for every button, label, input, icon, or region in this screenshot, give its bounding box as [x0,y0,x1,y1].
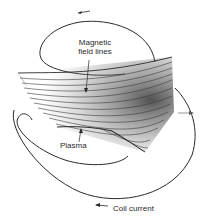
coil-current-label: Coil current [113,204,154,213]
plasma-label: Plasma [60,141,87,150]
magnetic-field-lines-label-line2: field lines [72,47,118,56]
coil-plasma-diagram [0,0,210,222]
magnetic-field-lines-label-line1: Magnetic [72,38,118,47]
plasma-sheet [18,57,174,152]
bottom-arrow-icon [95,203,108,207]
magnetic-field-lines-label: Magnetic field lines [72,38,118,56]
top-arrow-icon [78,11,90,14]
